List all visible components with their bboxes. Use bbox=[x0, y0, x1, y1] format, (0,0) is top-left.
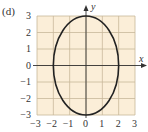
y-tick-label: 3 bbox=[26, 11, 31, 21]
y-tick-label: 0 bbox=[26, 61, 31, 71]
x-tick-label: 1 bbox=[99, 119, 104, 129]
x-tick-label: −1 bbox=[63, 119, 74, 129]
y-tick-label: 2 bbox=[26, 28, 31, 38]
y-axis-label: y bbox=[91, 2, 95, 12]
x-tick-label: −2 bbox=[46, 119, 57, 129]
x-tick-label: −3 bbox=[30, 119, 41, 129]
y-axis-arrow-icon bbox=[84, 5, 89, 11]
x-tick-label: 3 bbox=[132, 119, 137, 129]
y-tick-label: −1 bbox=[20, 77, 31, 87]
x-axis-label: x bbox=[139, 54, 143, 64]
y-tick-label: 1 bbox=[26, 44, 31, 54]
x-tick-label: 2 bbox=[116, 119, 121, 129]
y-tick-label: −2 bbox=[20, 94, 31, 104]
x-tick-label: 0 bbox=[83, 119, 88, 129]
